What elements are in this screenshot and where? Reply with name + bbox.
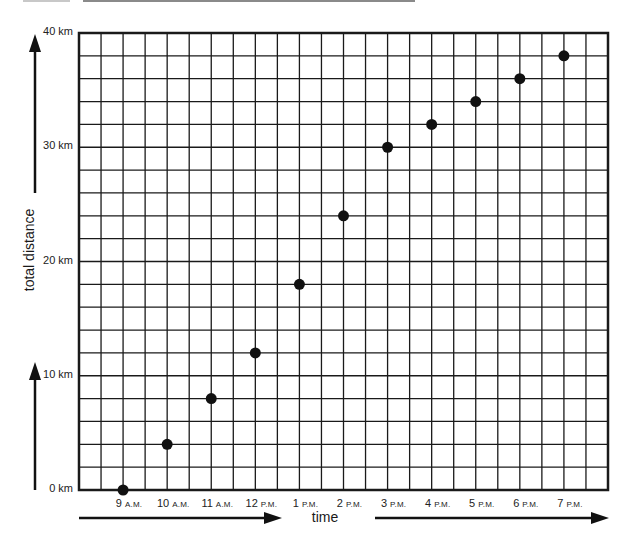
chart-grid [79,33,608,490]
x-tick-label: 1 P.M. [293,497,318,509]
data-point [426,119,437,130]
y-tick-label: 0 km [49,482,73,494]
data-point [294,279,305,290]
x-tick-label: 12 P.M. [246,497,278,509]
x-tick-label: 11 A.M. [201,497,233,509]
x-tick-label: 10 A.M. [157,497,190,509]
data-point [206,393,217,404]
data-point [514,73,525,84]
data-point [470,96,481,107]
x-tick-label: 2 P.M. [337,497,362,509]
data-point [338,210,349,221]
data-point [382,142,393,153]
y-tick-label: 30 km [43,139,73,151]
data-point [118,485,129,496]
y-tick-label: 20 km [43,254,73,266]
x-tick-label: 7 P.M. [557,497,582,509]
y-tick-label: 10 km [43,368,73,380]
x-tick-label: 6 P.M. [513,497,538,509]
data-point [558,50,569,61]
x-axis-arrow-right [375,512,609,524]
data-point [162,439,173,450]
data-point [250,347,261,358]
x-tick-label: 3 P.M. [381,497,406,509]
x-tick-label: 9 A.M. [116,497,142,509]
y-axis-title: total distance [21,209,37,292]
y-axis-arrow-lower [29,362,41,490]
y-tick-label: 40 km [43,25,73,37]
y-axis-arrow-upper [29,34,41,193]
x-tick-label: 5 P.M. [469,497,494,509]
distance-time-chart [0,0,630,543]
x-tick-label: 4 P.M. [425,497,450,509]
x-axis-arrow-left [79,512,282,524]
x-axis-title: time [312,509,338,525]
